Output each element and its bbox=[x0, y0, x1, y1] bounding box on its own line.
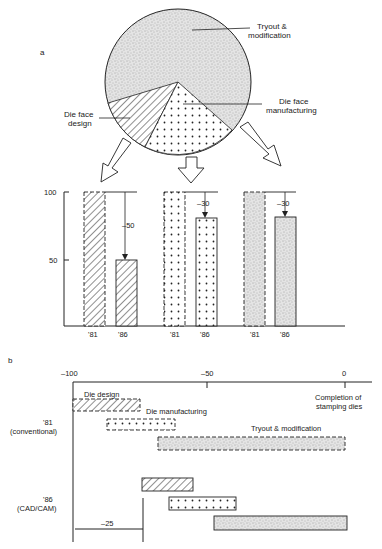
completion-label-1: Completion of bbox=[315, 393, 362, 402]
bar-chart: 100 50 –50 '81 '86 –30 '81 '86 –30 '81 '… bbox=[44, 188, 345, 339]
panel-b-label: b bbox=[8, 356, 13, 365]
task-81-tryout-bar bbox=[158, 437, 345, 450]
y-tick-100: 100 bbox=[44, 188, 57, 197]
year-mfg-86: '86 bbox=[200, 330, 210, 339]
task-86-tryout-bar bbox=[214, 516, 347, 530]
row-86-sub: (CAD/CAM) bbox=[17, 504, 57, 513]
year-tryout-86: '86 bbox=[280, 330, 290, 339]
reduction-25-label: –25 bbox=[101, 519, 114, 528]
year-design-86: '86 bbox=[118, 330, 128, 339]
reduction-tryout: –30 bbox=[277, 199, 290, 208]
row-81-year: '81 bbox=[43, 418, 53, 427]
pie-label-tryout-2: modification bbox=[248, 31, 291, 40]
row-86-year: '86 bbox=[43, 495, 53, 504]
pie-label-mfg-2: manufacturing bbox=[266, 106, 317, 115]
task-81-design-bar bbox=[73, 399, 140, 411]
task-86-mfg-bar bbox=[169, 497, 236, 510]
arrow-design-icon bbox=[101, 138, 131, 182]
gantt-chart: –100 –50 0 Completion of stamping dies '… bbox=[10, 369, 372, 542]
y-tick-50: 50 bbox=[49, 256, 57, 265]
bar-tryout-81 bbox=[244, 192, 265, 326]
arrow-tryout-icon bbox=[240, 122, 281, 166]
year-tryout-81: '81 bbox=[250, 330, 260, 339]
reduction-mfg: –30 bbox=[197, 199, 210, 208]
pie-label-design-1: Die face bbox=[64, 110, 94, 119]
year-mfg-81: '81 bbox=[170, 330, 180, 339]
reduction-design: –50 bbox=[122, 221, 135, 230]
task-86-design-bar bbox=[142, 478, 193, 491]
bar-design-86 bbox=[116, 260, 137, 326]
bar-mfg-81 bbox=[164, 192, 185, 326]
task-81-mfg-label: Die manufacturing bbox=[146, 407, 207, 416]
row-81-sub: (conventional) bbox=[10, 427, 58, 436]
task-81-mfg-bar bbox=[107, 419, 175, 430]
pie-label-design-2: design bbox=[68, 119, 92, 128]
pie-chart bbox=[105, 9, 251, 155]
year-design-81: '81 bbox=[88, 330, 98, 339]
bar-mfg-86 bbox=[196, 218, 217, 326]
task-81-tryout-label: Tryout & modification bbox=[251, 424, 321, 433]
pie-label-tryout-1: Tryout & bbox=[257, 22, 288, 31]
x-tick-neg100: –100 bbox=[61, 369, 78, 378]
bar-design-81 bbox=[84, 192, 105, 326]
x-tick-neg50: –50 bbox=[201, 369, 214, 378]
task-81-design-label: Die design bbox=[84, 390, 119, 399]
arrow-manufacturing-icon bbox=[178, 157, 204, 183]
panel-a-label: a bbox=[40, 48, 45, 57]
x-tick-0: 0 bbox=[342, 369, 346, 378]
completion-label-2: stamping dies bbox=[316, 402, 363, 411]
pie-label-mfg-1: Die face bbox=[279, 97, 309, 106]
bar-tryout-86 bbox=[275, 217, 296, 326]
diagram-canvas: a Tryout & modification Die face manufac… bbox=[0, 0, 382, 549]
